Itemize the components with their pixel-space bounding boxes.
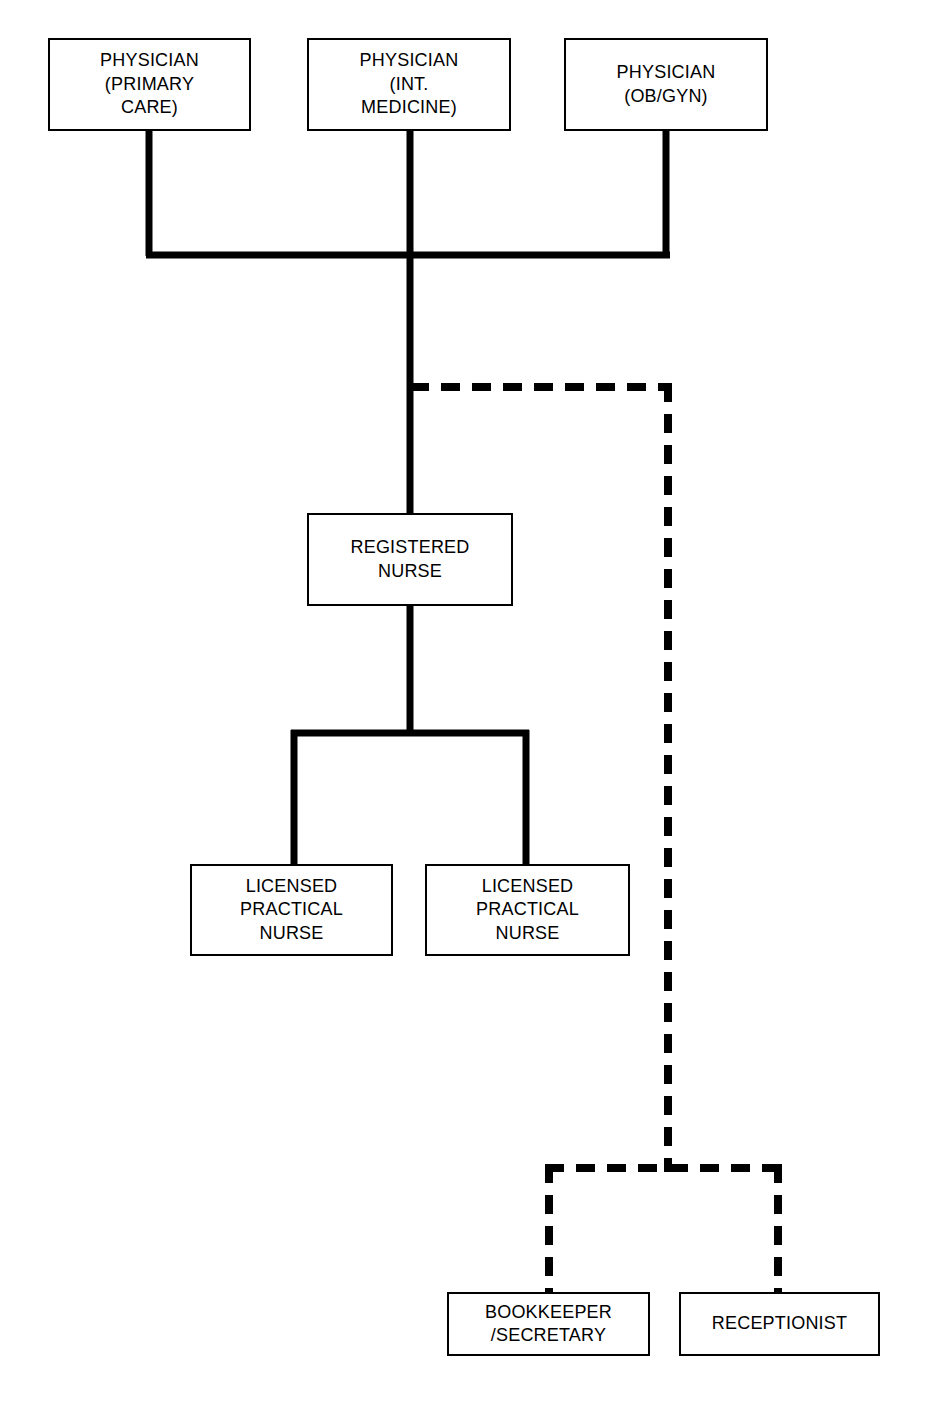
node-licensed-practical-nurse-1-label: LICENSED PRACTICAL NURSE	[236, 875, 347, 945]
org-chart-canvas: PHYSICIAN (PRIMARY CARE) PHYSICIAN (INT.…	[0, 0, 925, 1408]
node-bookkeeper-secretary[interactable]: BOOKKEEPER /SECRETARY	[447, 1292, 650, 1356]
node-physician-obgyn[interactable]: PHYSICIAN (OB/GYN)	[564, 38, 768, 131]
node-registered-nurse[interactable]: REGISTERED NURSE	[307, 513, 513, 606]
node-physician-primary-care-label: PHYSICIAN (PRIMARY CARE)	[96, 49, 203, 119]
org-chart-connectors	[0, 0, 925, 1408]
node-bookkeeper-secretary-label: BOOKKEEPER /SECRETARY	[481, 1301, 616, 1348]
node-physician-obgyn-label: PHYSICIAN (OB/GYN)	[613, 61, 720, 108]
node-physician-internal-medicine-label: PHYSICIAN (INT. MEDICINE)	[356, 49, 463, 119]
node-registered-nurse-label: REGISTERED NURSE	[346, 536, 473, 583]
node-receptionist-label: RECEPTIONIST	[708, 1312, 851, 1335]
node-receptionist[interactable]: RECEPTIONIST	[679, 1292, 880, 1356]
node-licensed-practical-nurse-2-label: LICENSED PRACTICAL NURSE	[472, 875, 583, 945]
node-licensed-practical-nurse-1[interactable]: LICENSED PRACTICAL NURSE	[190, 864, 393, 956]
node-physician-internal-medicine[interactable]: PHYSICIAN (INT. MEDICINE)	[307, 38, 511, 131]
node-physician-primary-care[interactable]: PHYSICIAN (PRIMARY CARE)	[48, 38, 251, 131]
node-licensed-practical-nurse-2[interactable]: LICENSED PRACTICAL NURSE	[425, 864, 630, 956]
